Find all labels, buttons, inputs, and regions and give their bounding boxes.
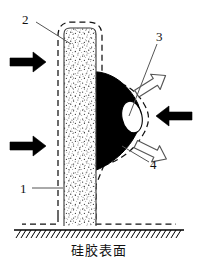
arrow-left-upper-solid bbox=[10, 52, 46, 72]
arrow-left-lower-solid bbox=[10, 136, 46, 156]
cross-section-figure bbox=[0, 0, 198, 268]
arrow-right-upper-hollow bbox=[132, 68, 170, 101]
bulge-ghost-skirt-dashed bbox=[96, 165, 176, 224]
callout-label-2: 2 bbox=[22, 13, 29, 26]
callout-label-4: 4 bbox=[150, 158, 157, 171]
callout-label-1: 1 bbox=[20, 182, 27, 195]
callout-label-3: 3 bbox=[156, 30, 163, 43]
arrow-right-middle-solid bbox=[156, 106, 192, 126]
ground-hatching bbox=[16, 230, 181, 238]
column-stipple-fill-2 bbox=[64, 28, 96, 226]
column-ghost-foot-dashed bbox=[22, 216, 58, 224]
figure-caption: 硅胶表面 bbox=[0, 243, 198, 259]
